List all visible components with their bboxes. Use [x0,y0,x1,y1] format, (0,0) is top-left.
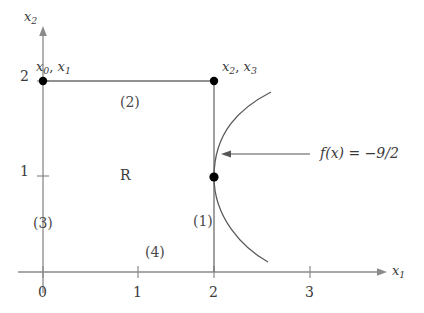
function-curve [214,92,271,262]
point-x0-x1 [39,77,47,85]
point-label-x0-x1: x0, x1 [36,60,71,75]
x-axis [18,268,387,276]
point-x2-x3 [210,77,218,85]
y-tick-label-1: 1 [20,164,29,178]
x-tick-label-3: 3 [305,285,314,299]
edge-label-4: (4) [145,245,165,259]
function-annotation-label: f(x) = −9/2 [320,146,399,160]
x-axis-label: x1 [392,264,405,279]
x-tick-label-0: 0 [38,285,47,299]
point-curve-node [209,172,218,181]
region-label: R [120,168,131,182]
edge-label-1: (1) [193,214,213,228]
point-label-x2-x3: x2, x3 [222,60,257,75]
edge-label-2: (2) [120,95,140,109]
y-tick-label-2: 2 [20,69,29,83]
x-tick-label-2: 2 [209,285,218,299]
figure-canvas: x2 x1 2 1 0 1 2 3 x0, x1 x2, x3 (1) (2) … [0,0,424,313]
edge-label-3: (3) [33,216,53,230]
x-tick-label-1: 1 [133,285,142,299]
annotation-arrow [221,150,310,157]
y-axis-label: x2 [24,10,37,25]
